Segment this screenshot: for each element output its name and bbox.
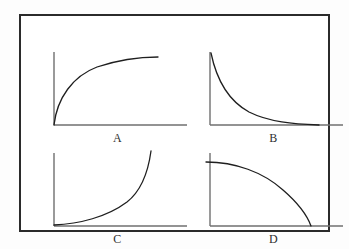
panel-d: D bbox=[201, 147, 346, 247]
panel-c: C bbox=[45, 147, 190, 247]
panel-c-curve bbox=[54, 151, 151, 225]
figure-outer-border: A B C D bbox=[19, 14, 330, 232]
panel-b-curve bbox=[211, 53, 319, 125]
figure-root: A B C D bbox=[0, 0, 349, 249]
panel-b: B bbox=[201, 46, 346, 146]
panel-c-plot bbox=[45, 147, 190, 233]
panel-a: A bbox=[45, 46, 190, 146]
panel-d-curve bbox=[206, 162, 311, 226]
panel-c-label: C bbox=[45, 232, 190, 247]
panel-a-curve bbox=[54, 57, 158, 125]
panel-a-plot bbox=[45, 46, 190, 132]
panel-b-label: B bbox=[201, 131, 346, 146]
panel-a-label: A bbox=[45, 131, 190, 146]
panel-b-plot bbox=[201, 46, 346, 132]
panel-d-label: D bbox=[201, 232, 346, 247]
panel-d-plot bbox=[201, 147, 346, 233]
